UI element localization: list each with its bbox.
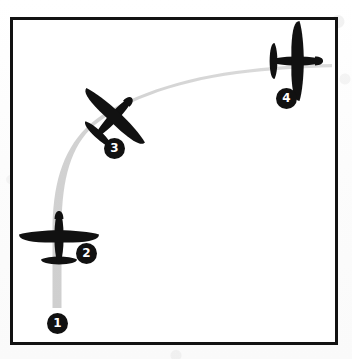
- position-marker-3: 3: [104, 138, 125, 159]
- position-marker-4: 4: [276, 88, 297, 109]
- aircraft-silhouette-position-4: [249, 13, 345, 109]
- position-marker-2: 2: [76, 243, 97, 264]
- figure-container: 1 2 3 4: [0, 0, 352, 359]
- aircraft-silhouette-position-2: [11, 189, 107, 285]
- position-marker-1: 1: [47, 313, 68, 334]
